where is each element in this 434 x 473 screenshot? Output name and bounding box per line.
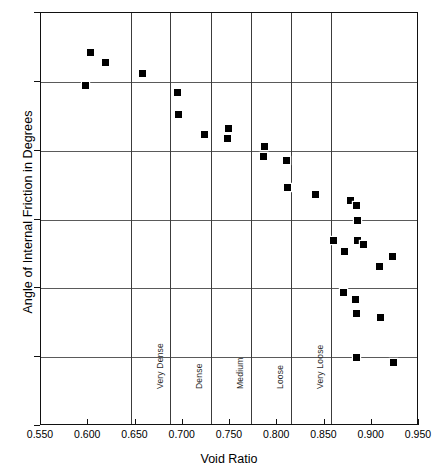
plot-area: Very DenseDenseMediumLooseVery Loose: [40, 12, 418, 425]
data-point: [340, 289, 347, 296]
data-point: [352, 296, 359, 303]
category-label-dense: Dense: [194, 364, 204, 390]
y-tick-mark-35: [34, 150, 40, 151]
x-axis-title: Void Ratio: [40, 452, 418, 466]
scatter-chart-figure: Angle of Internal Friction in Degrees Vo…: [0, 0, 434, 473]
category-label-very-dense: Very Dense: [155, 343, 165, 389]
data-point: [175, 111, 182, 118]
gridline-y-20: [41, 357, 417, 358]
data-point: [389, 253, 396, 260]
data-point: [261, 143, 268, 150]
data-point: [312, 191, 319, 198]
category-divider-5: [291, 13, 292, 424]
data-point: [353, 202, 360, 209]
x-tick-label-0.600: 0.600: [61, 428, 113, 440]
x-tick-mark-0.750: [229, 419, 230, 425]
y-tick-mark-20: [34, 356, 40, 357]
category-label-loose: Loose: [275, 365, 285, 389]
data-point: [283, 157, 290, 164]
x-tick-mark-0.950: [418, 419, 419, 425]
y-tick-mark-45: [34, 12, 40, 13]
data-point: [353, 310, 360, 317]
data-point: [87, 49, 94, 56]
data-point: [376, 263, 383, 270]
data-point: [260, 153, 267, 160]
data-point: [330, 237, 337, 244]
x-tick-mark-0.550: [40, 419, 41, 425]
data-point: [139, 70, 146, 77]
x-tick-mark-0.700: [182, 419, 183, 425]
data-point: [377, 314, 384, 321]
y-tick-mark-25: [34, 287, 40, 288]
data-point: [341, 248, 348, 255]
data-point: [225, 125, 232, 132]
data-point: [354, 217, 361, 224]
category-divider-3: [211, 13, 212, 424]
x-tick-label-0.750: 0.750: [203, 428, 255, 440]
category-divider-2: [170, 13, 171, 424]
x-tick-mark-0.900: [371, 419, 372, 425]
category-label-very-loose: Very Loose: [315, 345, 325, 390]
category-divider-4: [251, 13, 252, 424]
data-point: [102, 59, 109, 66]
gridline-y-40: [41, 82, 417, 83]
category-divider-1: [131, 13, 132, 424]
data-point: [353, 354, 360, 361]
x-tick-mark-0.800: [276, 419, 277, 425]
x-tick-label-0.800: 0.800: [250, 428, 302, 440]
y-axis-title: Angle of Internal Friction in Degrees: [21, 72, 35, 352]
data-point: [201, 131, 208, 138]
gridline-y-25: [41, 288, 417, 289]
data-point: [360, 241, 367, 248]
data-point: [174, 89, 181, 96]
y-tick-mark-15: [34, 425, 40, 426]
data-point: [224, 135, 231, 142]
x-tick-label-0.900: 0.900: [345, 428, 397, 440]
x-tick-mark-0.650: [135, 419, 136, 425]
category-label-medium: Medium: [235, 358, 245, 389]
category-divider-6: [331, 13, 332, 424]
x-tick-mark-0.600: [87, 419, 88, 425]
x-tick-label-0.550: 0.550: [14, 428, 66, 440]
x-tick-label-0.950: 0.950: [392, 428, 434, 440]
x-tick-mark-0.850: [324, 419, 325, 425]
x-tick-label-0.700: 0.700: [156, 428, 208, 440]
y-tick-mark-40: [34, 81, 40, 82]
data-point: [284, 184, 291, 191]
x-tick-label-0.850: 0.850: [298, 428, 350, 440]
gridline-y-35: [41, 151, 417, 152]
x-tick-label-0.650: 0.650: [109, 428, 161, 440]
data-point: [82, 82, 89, 89]
data-point: [390, 359, 397, 366]
y-tick-mark-30: [34, 219, 40, 220]
